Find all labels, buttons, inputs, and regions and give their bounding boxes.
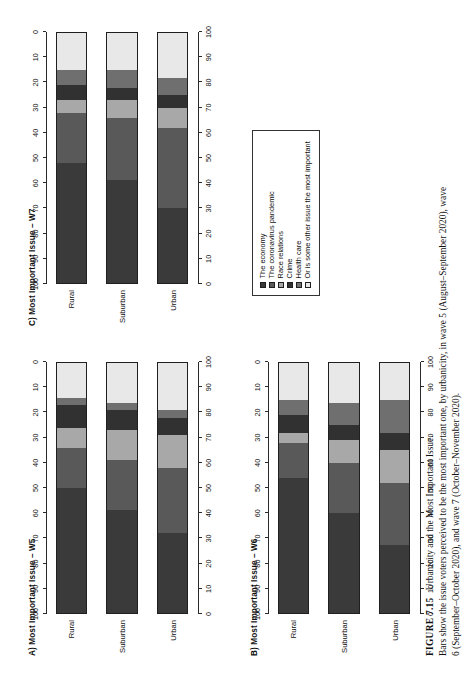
bar-segment[interactable] (158, 436, 187, 469)
bar-segment[interactable] (107, 71, 136, 89)
bar-segment[interactable] (329, 513, 358, 613)
bar-segment[interactable] (380, 483, 409, 546)
bar-urban[interactable] (379, 362, 410, 614)
bar-segment[interactable] (158, 468, 187, 533)
bar-suburban[interactable] (106, 362, 137, 614)
bar-segment[interactable] (279, 401, 308, 416)
legend-item[interactable]: Or is some other issue the most importan… (304, 138, 311, 288)
axis-tick-label-bottom: 0 (204, 282, 213, 286)
bar-segment[interactable] (57, 406, 86, 429)
axis-tick (199, 56, 202, 57)
bar-segment[interactable] (158, 411, 187, 419)
bar-segment[interactable] (107, 403, 136, 411)
axis-tick-label-bottom: 20 (204, 230, 213, 238)
bar-segment[interactable] (57, 113, 86, 163)
bar-segment[interactable] (279, 443, 308, 478)
bar-suburban[interactable] (328, 362, 359, 614)
axis-tick-label-bottom: 50 (204, 154, 213, 162)
bar-segment[interactable] (107, 101, 136, 119)
legend-item[interactable]: The coronavirus pandemic (268, 138, 275, 288)
axis-tick (43, 258, 46, 259)
bar-rural[interactable] (56, 32, 87, 284)
bar-segment[interactable] (57, 101, 86, 114)
category-label-urban: Urban (390, 620, 399, 641)
bar-segment[interactable] (158, 33, 187, 78)
bar-segment[interactable] (158, 208, 187, 283)
category-label-rural: Rural (289, 620, 298, 638)
bar-segment[interactable] (380, 363, 409, 401)
bar-segment[interactable] (107, 363, 136, 403)
bar-segment[interactable] (107, 181, 136, 284)
legend-item[interactable]: Health care (295, 138, 302, 288)
bar-segment[interactable] (329, 463, 358, 513)
bar-segment[interactable] (279, 433, 308, 443)
top-axis-line (46, 32, 47, 284)
bar-segment[interactable] (158, 363, 187, 411)
figure-title: Urbanicity and the Most Important Issue. (425, 435, 435, 590)
axis-tick (265, 437, 268, 438)
legend-item[interactable]: Crime (286, 138, 293, 288)
axis-tick (43, 157, 46, 158)
bar-segment[interactable] (107, 511, 136, 614)
category-label-suburban: Suburban (118, 620, 127, 653)
bar-segment[interactable] (380, 433, 409, 451)
axis-tick (43, 437, 46, 438)
legend-item[interactable]: Race relations (277, 138, 284, 288)
bar-segment[interactable] (107, 431, 136, 461)
bar-segment[interactable] (57, 398, 86, 406)
bar-segment[interactable] (57, 428, 86, 448)
figure-number: FIGURE 7.15 (425, 597, 435, 656)
bar-urban[interactable] (157, 362, 188, 614)
axis-tick-label-top: 40 (31, 129, 40, 137)
bar-segment[interactable] (329, 363, 358, 403)
bar-segment[interactable] (158, 418, 187, 436)
axis-tick-label-top: 80 (31, 230, 40, 238)
legend-swatch-icon (269, 282, 275, 288)
axis-tick-label-top: 50 (31, 154, 40, 162)
bar-segment[interactable] (57, 363, 86, 398)
bar-segment[interactable] (279, 478, 308, 613)
bar-suburban[interactable] (106, 32, 137, 284)
axis-tick-label-bottom: 50 (204, 484, 213, 492)
legend-swatch-icon (260, 282, 266, 288)
bar-segment[interactable] (279, 363, 308, 401)
category-label-suburban: Suburban (118, 290, 127, 323)
bar-urban[interactable] (157, 32, 188, 284)
bar-segment[interactable] (329, 426, 358, 441)
axis-tick-label-bottom: 10 (204, 585, 213, 593)
panel-c-plot: 1000901080207030604050504060307020801090… (46, 32, 198, 284)
bar-rural[interactable] (278, 362, 309, 614)
axis-tick (265, 411, 268, 412)
bar-segment[interactable] (107, 461, 136, 511)
bar-segment[interactable] (107, 33, 136, 71)
axis-tick-label-top: 80 (31, 560, 40, 568)
bar-segment[interactable] (158, 108, 187, 128)
bar-segment[interactable] (57, 448, 86, 488)
bar-segment[interactable] (329, 441, 358, 464)
bar-segment[interactable] (57, 33, 86, 71)
bar-segment[interactable] (57, 71, 86, 86)
bar-segment[interactable] (279, 416, 308, 434)
bar-segment[interactable] (380, 546, 409, 614)
axis-tick-label-bottom: 10 (204, 255, 213, 263)
axis-tick (43, 563, 46, 564)
axis-tick-label-bottom: 80 (204, 408, 213, 416)
bar-segment[interactable] (57, 163, 86, 283)
bar-segment[interactable] (329, 403, 358, 426)
bar-segment[interactable] (107, 88, 136, 101)
legend-item[interactable]: The economy (259, 138, 266, 288)
bar-segment[interactable] (107, 118, 136, 181)
bar-segment[interactable] (57, 488, 86, 613)
bar-segment[interactable] (57, 86, 86, 101)
axis-tick (43, 588, 46, 589)
bar-rural[interactable] (56, 362, 87, 614)
bar-segment[interactable] (158, 128, 187, 208)
bar-segment[interactable] (380, 451, 409, 484)
axis-tick-label-top: 50 (31, 484, 40, 492)
bar-segment[interactable] (158, 78, 187, 96)
bar-segment[interactable] (107, 411, 136, 431)
bar-segment[interactable] (158, 533, 187, 613)
bar-segment[interactable] (380, 401, 409, 434)
axis-tick-label-top: 40 (253, 459, 262, 467)
bar-segment[interactable] (158, 96, 187, 109)
